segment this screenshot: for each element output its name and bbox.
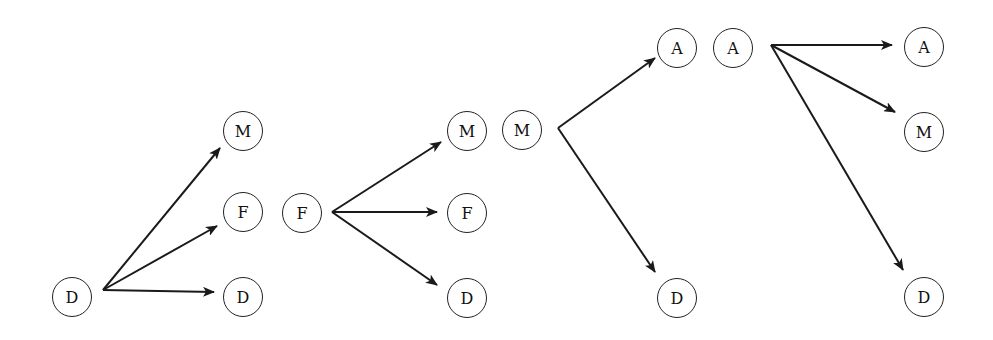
- node-d: D: [447, 278, 487, 318]
- node-m: M: [447, 111, 487, 151]
- diagram-canvas: DMFDFMFDMADAAMD: [0, 0, 993, 340]
- node-a-root: A: [713, 28, 753, 68]
- node-a: A: [657, 28, 697, 68]
- node-a: A: [904, 27, 944, 67]
- arrow-edge: [332, 212, 437, 285]
- edges-layer: [0, 0, 993, 340]
- arrow-edge: [558, 128, 655, 272]
- node-f: F: [447, 193, 487, 233]
- node-f: F: [223, 192, 263, 232]
- arrow-edge: [332, 142, 441, 212]
- node-m: M: [223, 111, 263, 151]
- node-d: D: [223, 277, 263, 317]
- node-d: D: [904, 277, 944, 317]
- arrow-edge: [771, 45, 903, 270]
- arrow-edge: [558, 58, 655, 128]
- node-f-root: F: [282, 193, 322, 233]
- node-m-root: M: [502, 110, 542, 150]
- arrow-edge: [103, 226, 217, 290]
- node-d: D: [657, 278, 697, 318]
- arrow-edge: [103, 148, 220, 290]
- node-m: M: [904, 112, 944, 152]
- node-d-root: D: [52, 277, 92, 317]
- arrow-edge: [103, 290, 214, 292]
